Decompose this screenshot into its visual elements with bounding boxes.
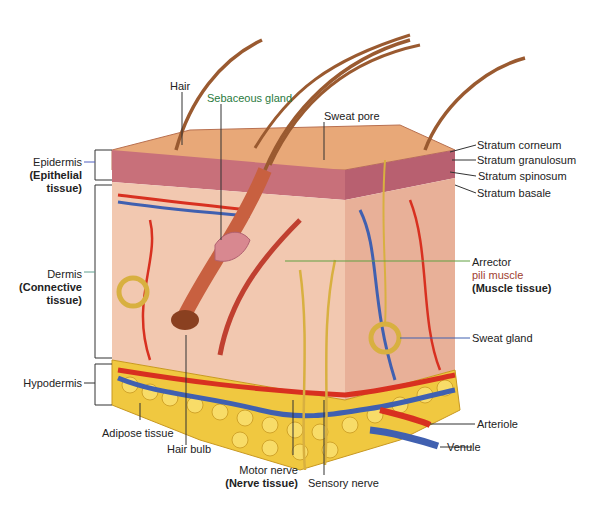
label-adipose-tissue: Adipose tissue — [102, 427, 174, 440]
label-stratum-spinosum: Stratum spinosum — [478, 170, 567, 183]
label-muscle-tissue: (Muscle tissue) — [472, 282, 551, 295]
label-dermis: Dermis — [10, 268, 82, 281]
label-connective-tissue-2: tissue) — [10, 294, 82, 307]
label-stratum-granulosum: Stratum granulosum — [477, 154, 576, 167]
skin-diagram: Epidermis (Epithelial tissue) Dermis (Co… — [0, 0, 590, 506]
label-stratum-corneum: Stratum corneum — [477, 139, 561, 152]
label-epithelial-tissue-2: tissue) — [20, 182, 82, 195]
label-arteriole: Arteriole — [477, 418, 518, 431]
label-connective-tissue: (Connective — [10, 281, 82, 294]
label-hair-bulb: Hair bulb — [167, 443, 211, 456]
label-epithelial-tissue: (Epithelial — [20, 169, 82, 182]
label-hair: Hair — [170, 80, 190, 93]
label-motor-nerve: Motor nerve — [228, 464, 298, 477]
label-sensory-nerve: Sensory nerve — [308, 477, 379, 490]
label-sebaceous-gland: Sebaceous gland — [207, 92, 292, 105]
label-epidermis: Epidermis — [20, 156, 82, 169]
label-nerve-tissue: (Nerve tissue) — [218, 477, 298, 490]
label-sweat-pore: Sweat pore — [324, 110, 380, 123]
label-pili-muscle: pili muscle — [472, 269, 523, 282]
label-stratum-basale: Stratum basale — [477, 187, 551, 200]
label-sweat-gland: Sweat gland — [472, 332, 533, 345]
label-arrector: Arrector — [472, 256, 511, 269]
label-hypodermis: Hypodermis — [10, 377, 82, 390]
label-venule: Venule — [447, 441, 481, 454]
